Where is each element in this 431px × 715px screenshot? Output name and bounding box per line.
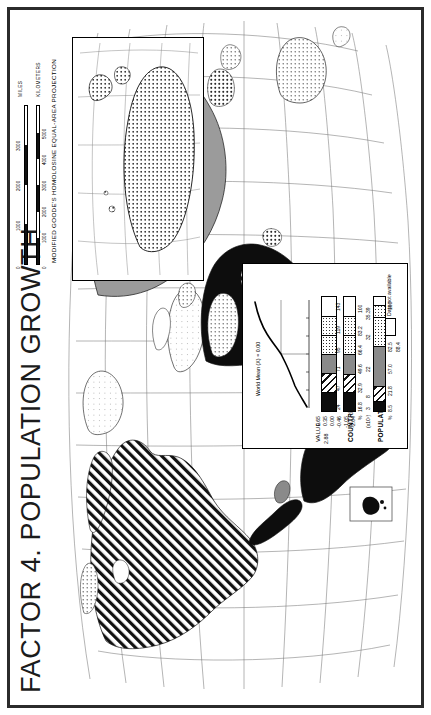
scale-tick-miles-2: 2000: [16, 181, 21, 191]
no-data-label: Data not available: [386, 274, 392, 316]
countries-seg-1: [344, 392, 355, 411]
poster-frame: FACTOR 4. POPULATION GROWTH: [7, 7, 424, 708]
swatch-class-2: [322, 373, 336, 392]
countries-seg-3: [344, 354, 355, 373]
landmass-north-america: [80, 440, 257, 649]
countries-seg-2: [344, 374, 355, 392]
population-seg-3: [374, 346, 385, 386]
scale-tick-km-5: 5000: [42, 129, 47, 139]
countries-count-4: 119: [335, 326, 341, 334]
swatch-class-3: [322, 354, 336, 373]
swatch-class-5: [322, 316, 336, 335]
population-seg-5: [374, 305, 385, 317]
world-mean-annotation: World Mean (X) = 0.00: [255, 342, 261, 396]
countries-seg-5: [344, 316, 355, 335]
population-pct-0: 8.5: [387, 405, 393, 412]
population-extra-tick: 88.4: [395, 342, 401, 352]
countries-pct-3: 66.4: [357, 345, 363, 355]
scale-bar-kilometers: [36, 105, 40, 265]
rotated-poster-stage: FACTOR 4. POPULATION GROWTH: [10, 10, 421, 705]
antarctica-inset: [72, 37, 204, 281]
legend-panel: World Mean (X) = 0.00 VALUE 2.88 0.65 0.…: [242, 263, 408, 449]
countries-seg-4: [344, 335, 355, 354]
population-pct-1: 21.8: [387, 386, 393, 396]
projection-caption: MODIFIED GOODE'S HOMOLOSINE EQUAL-AREA P…: [50, 35, 57, 287]
scale-tick-km-2: 2000: [42, 207, 47, 217]
scale-tick-miles-0: 0: [16, 266, 21, 269]
scale-tick-km-1: 1000: [42, 233, 47, 243]
population-count-4: 35.39: [365, 307, 371, 320]
countries-count-3: 95: [335, 347, 341, 353]
scale-unit-kilometers: KILOMETERS: [36, 62, 41, 97]
class-swatch-strip: [321, 296, 337, 412]
population-count-1: 8: [365, 395, 371, 398]
population-seg-1: [374, 401, 385, 411]
population-seg-2: [374, 386, 385, 401]
population-count-2: 22: [365, 366, 371, 372]
population-axis-label: %: [387, 416, 393, 420]
scale-tick-miles-3: 3000: [16, 141, 21, 151]
scale-tick-km-0: 0: [42, 266, 47, 269]
value-break-0: 0.65: [315, 416, 321, 438]
population-count-3: 32: [365, 334, 371, 340]
scale-tick-miles-1: 1000: [16, 221, 21, 231]
scale-tick-km-4: 4000: [42, 155, 47, 165]
landmass-central-america: [249, 481, 302, 545]
population-count-0: 3: [365, 407, 371, 410]
landmass-europe: [153, 283, 205, 372]
countries-pct-4: 83.2: [357, 326, 363, 336]
countries-count-1: 47: [335, 385, 341, 391]
population-seg-4: [374, 317, 385, 346]
value-break-3: -0.46: [336, 416, 342, 438]
countries-pct-2: 49.6: [357, 364, 363, 374]
countries-bar: [343, 296, 356, 412]
population-seg-6: [374, 297, 385, 305]
countries-pct-1: 32.9: [357, 383, 363, 393]
caribbean-detail-inset: [350, 487, 392, 521]
countries-pct-5: 100: [357, 305, 363, 313]
scale-bar-miles: [24, 105, 28, 265]
countries-count-5: 143: [335, 303, 341, 311]
countries-count-2: 71: [335, 366, 341, 372]
scale-tick-km-3: 3000: [42, 181, 47, 191]
value-break-1: 0.35: [322, 416, 328, 438]
swatch-class-1: [322, 392, 336, 411]
scale-unit-miles: MILES: [18, 81, 23, 97]
landmass-greenland: [83, 371, 123, 435]
countries-seg-6: [344, 297, 355, 316]
population-bar: [373, 296, 386, 412]
countries-axis-label: %: [357, 416, 363, 420]
swatch-class-4: [322, 335, 336, 354]
population-pct-3: 82.5: [387, 342, 393, 352]
projection-block: 0 1000 2000 3000 MILES 0 1000 2000 3000 …: [22, 35, 62, 287]
countries-pct-0: 16.8: [357, 402, 363, 412]
poster-page: FACTOR 4. POPULATION GROWTH: [0, 0, 431, 715]
landmass-southeast-asia: [208, 45, 241, 107]
no-data-swatch: [385, 318, 396, 336]
landmass-australia: [276, 27, 350, 103]
value-break-2: 0.00: [329, 416, 335, 438]
population-pct-2: 57.0: [387, 364, 393, 374]
swatch-class-6: [322, 297, 336, 316]
countries-count-0: 24: [335, 404, 341, 410]
antarctica-inset-svg: [72, 37, 204, 281]
population-axis-unit: (x10⁷): [365, 415, 371, 428]
